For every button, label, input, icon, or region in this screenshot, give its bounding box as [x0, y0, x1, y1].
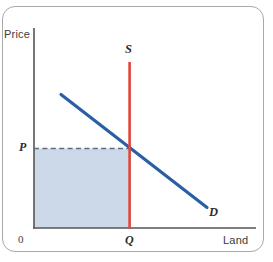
- supply-curve-label: S: [125, 42, 132, 57]
- origin-label: 0: [18, 233, 24, 245]
- y-axis-label: Price: [4, 28, 30, 40]
- y-tick-label-price: P: [19, 140, 26, 155]
- x-axis-label: Land: [223, 234, 248, 246]
- supply-demand-chart: Price Land 0 Q P S D: [0, 0, 273, 262]
- economic-rent-shaded-area: [34, 149, 130, 229]
- chart-svg: [0, 0, 273, 262]
- x-tick-label-quantity: Q: [125, 233, 134, 248]
- demand-curve-label: D: [209, 205, 218, 220]
